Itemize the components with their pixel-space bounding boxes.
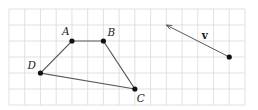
label-a: A — [61, 25, 70, 37]
vector-label: v — [201, 29, 209, 41]
point-d — [38, 70, 43, 75]
vector-v: v — [166, 25, 232, 60]
label-d: D — [26, 59, 36, 71]
point-c — [132, 86, 137, 91]
label-c: C — [137, 92, 145, 104]
diagram-canvas: v ABCD — [0, 0, 258, 110]
vertex-labels: ABCD — [26, 25, 144, 104]
label-b: B — [106, 26, 115, 38]
point-b — [101, 38, 106, 43]
grid — [9, 9, 245, 105]
vector-tail-point — [227, 54, 232, 59]
point-a — [69, 38, 74, 43]
